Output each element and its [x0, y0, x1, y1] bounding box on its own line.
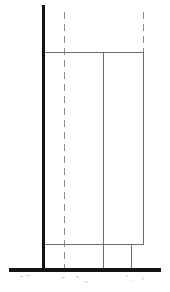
thin-line-layer: [44, 53, 145, 270]
faint-mark-below-base-far-right: [142, 277, 144, 281]
heavy-line-layer: [9, 5, 161, 270]
technical-drawing-canvas: [0, 0, 170, 292]
faint-mark-below-base-mid: [85, 281, 89, 283]
faint-mark-layer: [20, 275, 144, 283]
faint-mark-below-base-left: [20, 275, 30, 277]
elevation-drawing-svg: [0, 0, 170, 292]
faint-mark-below-base-right: [126, 275, 132, 281]
faint-mark-below-base-center: [76, 276, 82, 280]
